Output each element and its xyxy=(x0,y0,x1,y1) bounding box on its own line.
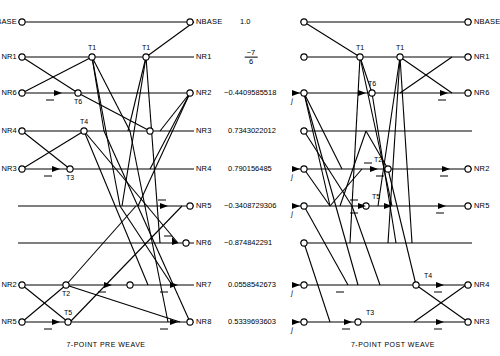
right-node-label-t4: T4 xyxy=(424,272,432,279)
value-nbase: 1.0 xyxy=(240,18,250,26)
value-nr7: 0.0558542673 xyxy=(228,281,276,289)
right-input-marker-3: j xyxy=(291,210,293,217)
left-input-label-nr1: NR1 xyxy=(1,53,17,61)
left-output-label-nr8: NR8 xyxy=(196,318,212,326)
right-input-marker-1: j xyxy=(291,97,293,104)
left-input-label-nr2: NR2 xyxy=(1,281,17,289)
left-node-label-t6: T6 xyxy=(74,98,82,105)
left-node-label-t3: T3 xyxy=(66,174,74,181)
left-output-label-nr3: NR3 xyxy=(196,127,212,135)
left-node-label-t2: T2 xyxy=(62,290,70,297)
right-output-label-nr1: NR1 xyxy=(474,53,490,61)
left-output-label-nr6: NR6 xyxy=(196,239,212,247)
right-arrowheads xyxy=(292,90,450,325)
left-rails xyxy=(18,22,194,322)
left-input-label-nr5: NR5 xyxy=(1,318,17,326)
left-input-label-nbase: NBASE xyxy=(0,18,17,26)
right-node-label-t5: T5 xyxy=(372,193,380,200)
left-node-label-t1-b: T1 xyxy=(142,44,150,51)
left-caption: 7-POINT PRE WEAVE xyxy=(66,341,145,348)
right-node-label-t2: T2 xyxy=(374,156,382,163)
left-crosslinks xyxy=(22,22,194,322)
right-node-label-t3: T3 xyxy=(366,309,374,316)
left-input-label-nr6: NR6 xyxy=(1,89,17,97)
right-output-label-nbase: NBASE xyxy=(474,18,500,26)
right-input-marker-5: j xyxy=(291,326,293,333)
right-caption: 7-POINT POST WEAVE xyxy=(351,341,435,348)
right-output-label-nr2: NR2 xyxy=(474,165,490,173)
right-output-label-nr6: NR6 xyxy=(474,89,490,97)
right-node-label-t1-a: T1 xyxy=(356,44,364,51)
value-nr2: −0.4409585518 xyxy=(224,89,276,97)
value-nr1-fraction: −7 6 xyxy=(245,49,258,66)
right-node-label-t6: T6 xyxy=(368,80,376,87)
left-arrowheads xyxy=(52,90,178,325)
left-output-label-nbase: NBASE xyxy=(196,18,222,26)
left-input-label-nr3: NR3 xyxy=(1,165,17,173)
right-rails xyxy=(292,22,472,322)
left-output-label-nr4: NR4 xyxy=(196,165,212,173)
right-output-label-nr5: NR5 xyxy=(474,202,490,210)
left-node-label-t4: T4 xyxy=(80,118,88,125)
right-output-label-nr3: NR3 xyxy=(474,318,490,326)
right-input-marker-4: j xyxy=(291,289,293,296)
left-nodes xyxy=(19,19,193,325)
left-output-label-nr1: NR1 xyxy=(196,53,212,61)
left-node-label-t1-a: T1 xyxy=(88,44,96,51)
left-output-label-nr5: NR5 xyxy=(196,202,212,210)
value-nr5: −0.3408729306 xyxy=(224,202,276,210)
fraction-denominator: 6 xyxy=(245,57,258,66)
value-nr3: 0.7343022012 xyxy=(228,127,276,135)
value-nr6: −0.874842291 xyxy=(224,239,272,247)
left-node-label-t5: T5 xyxy=(64,309,72,316)
value-nr8: 0.5339693603 xyxy=(228,318,276,326)
right-output-label-nr4: NR4 xyxy=(474,281,490,289)
left-input-label-nr4: NR4 xyxy=(1,127,17,135)
fraction-numerator: −7 xyxy=(245,49,258,57)
right-input-marker-2: j xyxy=(291,173,293,180)
left-output-label-nr2: NR2 xyxy=(196,89,212,97)
left-output-label-nr7: NR7 xyxy=(196,281,212,289)
right-node-label-t1-b: T1 xyxy=(396,44,404,51)
value-nr4: 0.790156485 xyxy=(228,165,272,173)
